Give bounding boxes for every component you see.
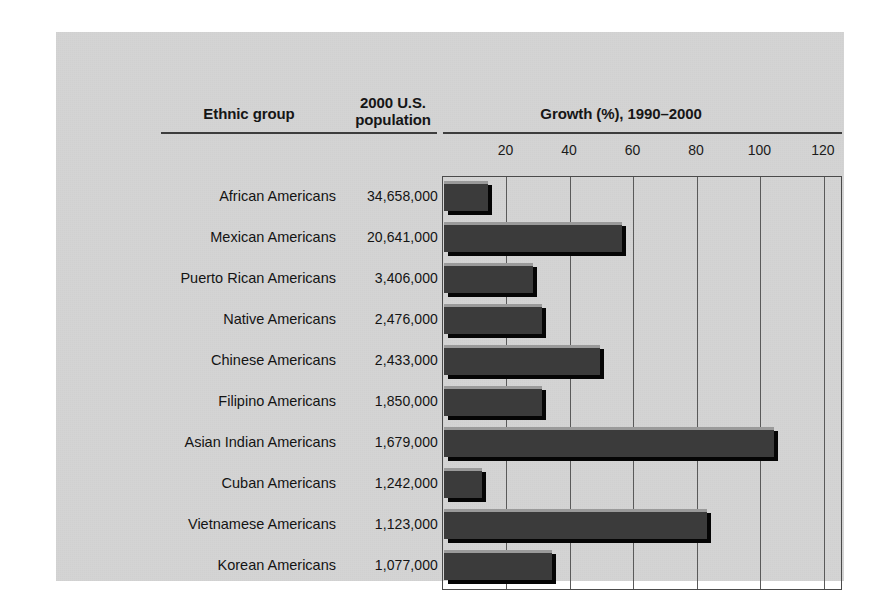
category-label-row: Native Americans	[124, 299, 336, 340]
population-value: 1,123,000	[342, 504, 438, 545]
column-header-population-line2: population	[338, 111, 448, 128]
bar-row	[444, 464, 844, 505]
bar-shadow-right	[622, 226, 626, 256]
category-label: Chinese Americans	[124, 340, 336, 381]
bar-highlight	[444, 222, 622, 225]
population-value: 2,476,000	[342, 299, 438, 340]
category-label: Filipino Americans	[124, 381, 336, 422]
bar	[444, 509, 707, 539]
bar-shadow-bottom	[448, 293, 537, 297]
population-value: 20,641,000	[342, 217, 438, 258]
category-label-row: Cuban Americans	[124, 463, 336, 504]
bar-highlight	[444, 427, 774, 430]
chart-title: Growth (%), 1990–2000	[476, 105, 766, 122]
bar-shadow-bottom	[448, 580, 556, 584]
bar-highlight	[444, 550, 552, 553]
category-label: Asian Indian Americans	[124, 422, 336, 463]
bar-row	[444, 259, 844, 300]
bar-shadow-right	[707, 513, 711, 543]
bar	[444, 345, 600, 375]
category-label: Cuban Americans	[124, 463, 336, 504]
population-value-row: 2,476,000	[342, 299, 438, 340]
bar-highlight	[444, 468, 482, 471]
column-header-ethnic-group: Ethnic group	[164, 105, 334, 122]
bar-row	[444, 546, 844, 587]
bar-highlight	[444, 345, 600, 348]
bar	[444, 550, 552, 580]
bar-shadow-bottom	[448, 416, 546, 420]
bar	[444, 263, 533, 293]
bar-shadow-bottom	[448, 211, 492, 215]
population-value-row: 1,077,000	[342, 545, 438, 586]
category-label-row: Vietnamese Americans	[124, 504, 336, 545]
population-value-row: 20,641,000	[342, 217, 438, 258]
bar	[444, 222, 622, 252]
category-label: Mexican Americans	[124, 217, 336, 258]
bar-shadow-bottom	[448, 334, 546, 338]
bar	[444, 181, 488, 211]
bar-highlight	[444, 304, 542, 307]
bar-shadow-right	[542, 308, 546, 338]
category-label-row: Chinese Americans	[124, 340, 336, 381]
x-tick-label: 100	[739, 142, 779, 158]
category-label-row: Filipino Americans	[124, 381, 336, 422]
x-tick-label: 80	[676, 142, 716, 158]
bar	[444, 427, 774, 457]
bar-shadow-right	[542, 390, 546, 420]
category-label-row: African Americans	[124, 176, 336, 217]
category-label: Native Americans	[124, 299, 336, 340]
column-header-population: 2000 U.S. population	[338, 94, 448, 128]
bar-shadow-bottom	[448, 539, 711, 543]
population-value: 1,679,000	[342, 422, 438, 463]
bar-shadow-right	[600, 349, 604, 379]
bar-row	[444, 341, 844, 382]
population-value-row: 34,658,000	[342, 176, 438, 217]
bar-row	[444, 505, 844, 546]
bar-highlight	[444, 263, 533, 266]
bar-highlight	[444, 509, 707, 512]
header-rule-left	[161, 132, 437, 134]
column-header-population-line1: 2000 U.S.	[338, 94, 448, 111]
plot-area	[442, 176, 842, 590]
bar	[444, 386, 542, 416]
population-value: 1,242,000	[342, 463, 438, 504]
x-tick-label: 120	[803, 142, 843, 158]
population-value-row: 1,123,000	[342, 504, 438, 545]
chart-panel: Ethnic group 2000 U.S. population Growth…	[56, 32, 844, 581]
category-label: African Americans	[124, 176, 336, 217]
population-value: 34,658,000	[342, 176, 438, 217]
bar	[444, 304, 542, 334]
bar-shadow-bottom	[448, 498, 486, 502]
population-value-row: 2,433,000	[342, 340, 438, 381]
x-tick-label: 40	[549, 142, 589, 158]
bar-shadow-right	[533, 267, 537, 297]
x-tick-label: 20	[485, 142, 525, 158]
bar-shadow-right	[774, 431, 778, 461]
bar-shadow-bottom	[448, 457, 778, 461]
category-label-row: Puerto Rican Americans	[124, 258, 336, 299]
bar-shadow-right	[552, 554, 556, 584]
population-value: 1,077,000	[342, 545, 438, 586]
population-value-row: 1,679,000	[342, 422, 438, 463]
category-label-row: Asian Indian Americans	[124, 422, 336, 463]
bar-row	[444, 218, 844, 259]
figure-container: Ethnic group 2000 U.S. population Growth…	[0, 0, 884, 611]
category-label: Puerto Rican Americans	[124, 258, 336, 299]
bar-highlight	[444, 181, 488, 184]
bar-shadow-bottom	[448, 252, 626, 256]
bar-highlight	[444, 386, 542, 389]
population-value-row: 1,850,000	[342, 381, 438, 422]
category-label-row: Mexican Americans	[124, 217, 336, 258]
category-label-row: Korean Americans	[124, 545, 336, 586]
population-value-row: 1,242,000	[342, 463, 438, 504]
population-value: 2,433,000	[342, 340, 438, 381]
population-value: 1,850,000	[342, 381, 438, 422]
category-label: Vietnamese Americans	[124, 504, 336, 545]
bar	[444, 468, 482, 498]
bar-row	[444, 177, 844, 218]
category-label: Korean Americans	[124, 545, 336, 586]
header-rule-right	[443, 132, 842, 134]
bar-shadow-right	[482, 472, 486, 502]
bar-row	[444, 382, 844, 423]
x-tick-label: 60	[612, 142, 652, 158]
